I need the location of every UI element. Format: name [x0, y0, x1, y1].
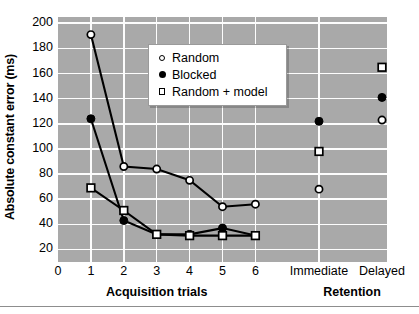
y-axis-tick-label: 140: [0, 91, 53, 105]
x-axis-tick-label: Delayed: [359, 264, 405, 278]
legend-item: Random + model: [155, 83, 280, 100]
open-square-marker-icon: [155, 88, 169, 95]
legend-item-label: Blocked: [169, 68, 216, 82]
x-axis-group-title: Acquisition trials: [106, 285, 207, 299]
y-axis-tick-label: 80: [0, 166, 53, 180]
legend-item: Blocked: [155, 66, 280, 83]
x-axis-tick-label: 5: [219, 264, 226, 278]
legend-item-label: Random: [169, 51, 219, 65]
x-axis-group-title: Retention: [323, 285, 381, 299]
x-axis-tick-label: Immediate: [290, 264, 348, 278]
gridline-vertical: [318, 17, 320, 262]
x-axis-tick-label: 3: [153, 264, 160, 278]
legend-item: Random: [155, 49, 280, 66]
y-axis-tick-label: 180: [0, 40, 53, 54]
x-axis-tick-label: 6: [252, 264, 259, 278]
filled-circle-marker-icon: [155, 71, 169, 78]
x-axis-tick-label: 2: [120, 264, 127, 278]
legend-item-label: Random + model: [169, 85, 268, 99]
gridline-vertical: [123, 17, 125, 262]
x-axis-tick-label: 1: [87, 264, 94, 278]
y-axis-tick-label: 120: [0, 116, 53, 130]
y-axis-tick-label: 40: [0, 216, 53, 230]
chart-figure: Absolute constant error (ms) 20406080100…: [0, 0, 419, 314]
x-axis-tick-label: 0: [55, 264, 62, 278]
footer-divider: [0, 306, 419, 307]
y-axis-tick-label: 160: [0, 66, 53, 80]
open-circle-marker-icon: [155, 55, 169, 61]
y-axis-tick-label: 60: [0, 191, 53, 205]
gridline-vertical: [90, 17, 92, 262]
y-axis-tick-label: 100: [0, 141, 53, 155]
chart-legend: Random Blocked Random + model: [148, 44, 287, 106]
x-axis-tick-label: 4: [186, 264, 193, 278]
y-axis-tick-label: 200: [0, 15, 53, 29]
y-axis-tick-label: 20: [0, 241, 53, 255]
